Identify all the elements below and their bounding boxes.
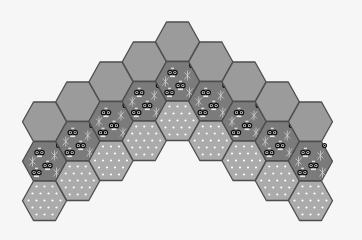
- sand-dot: [210, 125, 212, 127]
- sand-dot: [139, 146, 141, 148]
- sand-dot: [168, 133, 170, 135]
- sand-dot: [297, 206, 299, 208]
- sand-dot: [102, 145, 104, 147]
- sand-dot: [143, 153, 145, 155]
- sand-dot: [284, 165, 286, 167]
- sand-dot: [243, 159, 245, 161]
- sand-dot: [276, 179, 278, 181]
- sand-dot: [126, 159, 128, 161]
- sand-dot: [239, 166, 241, 168]
- sand-dot: [89, 172, 91, 174]
- sand-dot: [172, 112, 174, 114]
- sand-dot: [147, 132, 149, 134]
- sand-dot: [51, 213, 53, 215]
- sand-dot: [247, 166, 249, 168]
- sand-dot: [251, 159, 253, 161]
- sand-dot: [288, 186, 290, 188]
- sand-dot: [235, 159, 237, 161]
- sand-dot: [114, 166, 116, 168]
- sand-dot: [106, 152, 108, 154]
- sand-dot: [106, 166, 108, 168]
- sand-dot: [176, 105, 178, 107]
- sand-dot: [98, 152, 100, 154]
- sand-dot: [172, 126, 174, 128]
- sand-dot: [309, 213, 311, 215]
- sand-dot: [239, 152, 241, 154]
- sand-dot: [292, 179, 294, 181]
- sand-dot: [272, 186, 274, 188]
- sand-dot: [218, 153, 220, 155]
- sand-dot: [321, 206, 323, 208]
- sand-dot: [43, 213, 45, 215]
- sand-dot: [89, 186, 91, 188]
- sand-dot: [325, 199, 327, 201]
- sand-dot: [276, 193, 278, 195]
- sand-dot: [85, 179, 87, 181]
- sand-dot: [202, 153, 204, 155]
- sand-dot: [309, 199, 311, 201]
- sand-dot: [85, 165, 87, 167]
- sand-dot: [206, 146, 208, 148]
- sand-dot: [59, 199, 61, 201]
- sand-dot: [231, 166, 233, 168]
- sand-dot: [251, 145, 253, 147]
- sand-dot: [73, 172, 75, 174]
- sand-dot: [98, 166, 100, 168]
- sand-dot: [317, 185, 319, 187]
- sand-dot: [194, 139, 196, 141]
- sand-dot: [317, 213, 319, 215]
- sand-dot: [47, 192, 49, 194]
- sand-dot: [264, 172, 266, 174]
- sand-dot: [305, 192, 307, 194]
- sand-dot: [43, 185, 45, 187]
- sand-dot: [184, 133, 186, 135]
- sand-dot: [143, 139, 145, 141]
- sand-dot: [264, 186, 266, 188]
- sand-dot: [164, 112, 166, 114]
- sand-dot: [301, 213, 303, 215]
- sand-dot: [110, 145, 112, 147]
- sand-dot: [188, 112, 190, 114]
- sand-dot: [93, 179, 95, 181]
- sand-dot: [218, 125, 220, 127]
- sand-dot: [73, 186, 75, 188]
- sand-dot: [301, 199, 303, 201]
- sand-dot: [143, 125, 145, 127]
- sand-dot: [55, 206, 57, 208]
- sand-dot: [293, 199, 295, 201]
- sand-dot: [77, 165, 79, 167]
- hex-tiles: [23, 22, 333, 221]
- sand-dot: [202, 125, 204, 127]
- sand-dot: [184, 119, 186, 121]
- sand-dot: [110, 173, 112, 175]
- sand-dot: [176, 119, 178, 121]
- sand-dot: [35, 185, 37, 187]
- sand-dot: [214, 132, 216, 134]
- sand-dot: [102, 173, 104, 175]
- sand-dot: [77, 193, 79, 195]
- sand-dot: [210, 139, 212, 141]
- sand-dot: [198, 146, 200, 148]
- sand-dot: [151, 153, 153, 155]
- sand-dot: [243, 145, 245, 147]
- sand-dot: [135, 139, 137, 141]
- sand-dot: [139, 132, 141, 134]
- sand-dot: [259, 159, 261, 161]
- sand-dot: [51, 185, 53, 187]
- sand-dot: [276, 165, 278, 167]
- sand-dot: [210, 153, 212, 155]
- sand-dot: [202, 139, 204, 141]
- sand-dot: [155, 146, 157, 148]
- sand-dot: [313, 192, 315, 194]
- sand-dot: [284, 193, 286, 195]
- sand-dot: [131, 146, 133, 148]
- sand-dot: [235, 173, 237, 175]
- sand-dot: [268, 165, 270, 167]
- sand-dot: [251, 173, 253, 175]
- sand-dot: [94, 159, 96, 161]
- sand-dot: [47, 206, 49, 208]
- sand-dot: [227, 159, 229, 161]
- sand-dot: [122, 152, 124, 154]
- sand-dot: [288, 172, 290, 174]
- sand-dot: [222, 132, 224, 134]
